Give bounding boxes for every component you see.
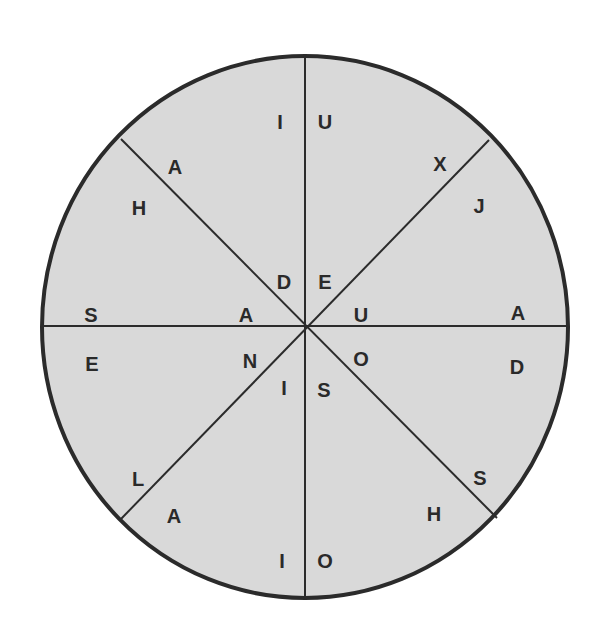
letter-outer-s: S: [84, 304, 97, 326]
letter-outer-h: H: [132, 197, 146, 219]
letter-inner-e: E: [318, 271, 331, 293]
letter-outer-a: A: [167, 505, 181, 527]
letter-outer-h: H: [427, 503, 441, 525]
letter-inner-o: O: [353, 348, 369, 370]
letter-inner-n: N: [243, 350, 257, 372]
wheel-svg: IUXJADSHOIALESHADEUOSINA: [0, 0, 604, 641]
letter-outer-o: O: [317, 550, 333, 572]
letter-inner-s: S: [317, 379, 330, 401]
letter-outer-j: J: [473, 195, 484, 217]
letter-outer-e: E: [85, 353, 98, 375]
letter-outer-a: A: [511, 302, 525, 324]
letter-outer-i: I: [279, 550, 285, 572]
letter-outer-s: S: [473, 467, 486, 489]
letter-outer-l: L: [132, 468, 144, 490]
letter-outer-d: D: [510, 356, 524, 378]
letter-inner-u: U: [354, 304, 368, 326]
letter-wheel-diagram: IUXJADSHOIALESHADEUOSINA: [0, 0, 604, 641]
letter-inner-d: D: [277, 271, 291, 293]
letter-inner-a: A: [239, 304, 253, 326]
letter-outer-i: I: [277, 111, 283, 133]
letter-inner-i: I: [281, 377, 287, 399]
letter-outer-x: X: [433, 153, 447, 175]
letter-outer-a: A: [168, 156, 182, 178]
letter-outer-u: U: [318, 111, 332, 133]
